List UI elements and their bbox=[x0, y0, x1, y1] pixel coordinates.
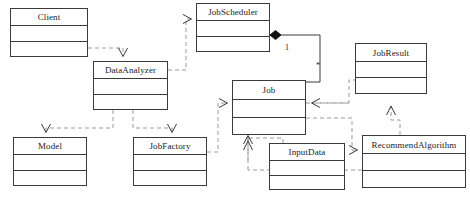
class-attributes-job-result bbox=[356, 62, 426, 78]
class-operations-client bbox=[11, 42, 87, 57]
class-name-data-analyzer: DataAnalyzer bbox=[94, 62, 167, 79]
class-name-input-data: InputData bbox=[270, 144, 344, 161]
class-attributes-job-factory bbox=[134, 155, 206, 171]
class-name-recommend-algorithm: RecommendAlgorithm bbox=[363, 136, 465, 154]
connector-jobscheduler-to-job bbox=[270, 31, 320, 83]
class-attributes-job bbox=[233, 100, 305, 118]
multiplicity-label-job: * bbox=[316, 62, 320, 70]
class-attributes-client bbox=[11, 26, 87, 42]
class-attributes-input-data bbox=[270, 161, 344, 176]
class-operations-recommend-algorithm bbox=[363, 171, 465, 187]
class-operations-job-result bbox=[356, 78, 426, 93]
class-attributes-model bbox=[14, 155, 86, 171]
class-attributes-recommend-algorithm bbox=[363, 154, 465, 171]
connector-dataanalyzer-to-jobfactory bbox=[133, 110, 172, 132]
composition-diamond bbox=[270, 31, 281, 40]
class-box-recommend-algorithm[interactable]: RecommendAlgorithm bbox=[362, 135, 466, 188]
class-box-job[interactable]: Job bbox=[232, 80, 306, 135]
class-attributes-data-analyzer bbox=[94, 79, 167, 95]
class-name-job-result: JobResult bbox=[356, 44, 426, 62]
class-box-model[interactable]: Model bbox=[13, 137, 87, 186]
connector-dataanalyzer-to-jobscheduler bbox=[168, 19, 191, 70]
class-name-job-factory: JobFactory bbox=[134, 138, 206, 155]
class-box-job-factory[interactable]: JobFactory bbox=[133, 137, 207, 186]
connector-jobfactory-to-job bbox=[207, 103, 227, 152]
class-name-client: Client bbox=[11, 9, 87, 26]
class-operations-job bbox=[233, 118, 305, 135]
class-box-client[interactable]: Client bbox=[10, 8, 88, 57]
class-box-job-scheduler[interactable]: JobScheduler bbox=[196, 3, 270, 52]
connector-dataanalyzer-to-model bbox=[46, 110, 113, 132]
class-operations-job-factory bbox=[134, 171, 206, 186]
class-name-model: Model bbox=[14, 138, 86, 155]
class-operations-model bbox=[14, 171, 86, 186]
class-box-data-analyzer[interactable]: DataAnalyzer bbox=[93, 61, 168, 110]
class-attributes-job-scheduler bbox=[197, 21, 269, 37]
uml-class-diagram: Client DataAnalyzer JobScheduler Job Job… bbox=[0, 0, 470, 208]
class-name-job-scheduler: JobScheduler bbox=[197, 4, 269, 21]
connector-job-to-jobresult bbox=[306, 80, 355, 103]
class-box-job-result[interactable]: JobResult bbox=[355, 43, 427, 94]
class-operations-job-scheduler bbox=[197, 37, 269, 52]
connector-client-to-dataanalyzer bbox=[88, 48, 123, 56]
class-name-job: Job bbox=[233, 81, 305, 100]
class-operations-data-analyzer bbox=[94, 95, 167, 110]
connector-recommendalgorithm-to-jobresult bbox=[391, 106, 400, 135]
class-operations-input-data bbox=[270, 176, 344, 190]
class-box-input-data[interactable]: InputData bbox=[269, 143, 345, 190]
multiplicity-label-scheduler: 1 bbox=[285, 44, 289, 52]
